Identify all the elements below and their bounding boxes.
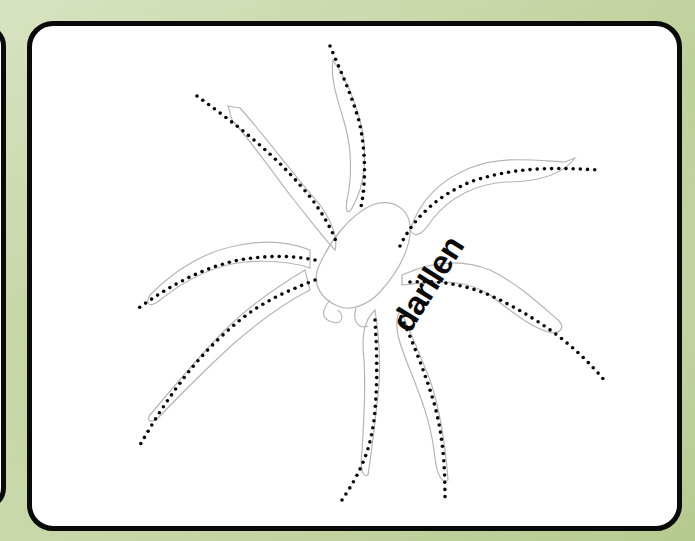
tracing-dots — [138, 44, 605, 502]
spider-illustration — [27, 21, 682, 531]
spider-outline — [148, 60, 575, 481]
previous-card-edge — [0, 24, 6, 510]
worksheet-card: darllen — [27, 21, 682, 531]
